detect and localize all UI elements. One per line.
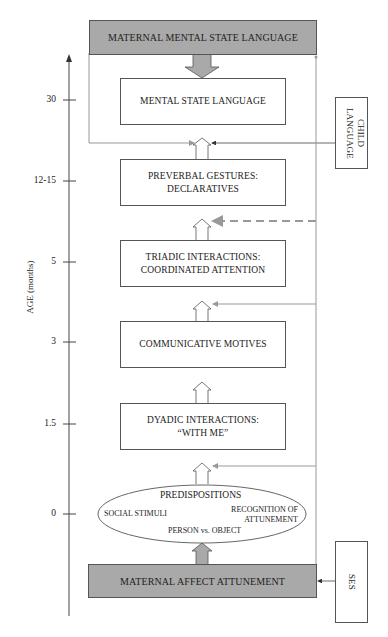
stage-triadic-interactions: TRIADIC INTERACTIONS: COORDINATED ATTENT… [120, 240, 286, 287]
age-axis-label: AGE (months) [25, 249, 35, 325]
stage-label-line2: COORDINATED ATTENTION [141, 264, 265, 277]
stage-label-line2: DECLARATIVES [167, 183, 239, 196]
maternal-affect-attunement-label: MATERNAL AFFECT ATTUNEMENT [120, 575, 285, 588]
stage-label-line1: PREVERBAL GESTURES: [148, 170, 258, 183]
stage-communicative-motives: COMMUNICATIVE MOTIVES [120, 321, 286, 368]
recognition-line2: ATTUNEMENT [222, 515, 298, 525]
age-axis-arrowhead-icon [66, 54, 72, 62]
up-arrow-icon [192, 543, 212, 565]
ses-label: SES [346, 574, 357, 590]
tick-label-0: 0 [22, 508, 56, 518]
maternal-mental-state-language-label: MATERNAL MENTAL STATE LANGUAGE [108, 31, 298, 44]
predispositions-social-stimuli: SOCIAL STIMULI [104, 509, 167, 519]
stage-preverbal-gestures: PREVERBAL GESTURES: DECLARATIVES [120, 159, 286, 206]
maternal-affect-attunement-box: MATERNAL AFFECT ATTUNEMENT [88, 564, 317, 598]
ses-box: SES [335, 541, 368, 623]
stage-dyadic-interactions: DYADIC INTERACTIONS: “WITH ME” [120, 403, 286, 450]
predispositions-title: PREDISPOSITIONS [160, 490, 241, 500]
predispositions-person-vs-object: PERSON vs. OBJECT [168, 526, 241, 536]
tick-label-1-5: 1.5 [22, 418, 56, 428]
stage-label-line1: DYADIC INTERACTIONS: [147, 414, 259, 427]
tick-label-3: 3 [22, 336, 56, 346]
down-arrow-icon [185, 53, 219, 78]
stage-label-line2: “WITH ME” [178, 427, 229, 440]
maternal-mental-state-language-box: MATERNAL MENTAL STATE LANGUAGE [89, 20, 317, 55]
child-language-label: CHILD LANGUAGE [338, 98, 366, 168]
child-language-box: CHILD LANGUAGE [335, 97, 368, 169]
tick-label-30: 30 [22, 94, 56, 104]
stage-label: COMMUNICATIVE MOTIVES [139, 338, 266, 351]
recognition-line1: RECOGNITION OF [222, 505, 298, 515]
stage-mental-state-language: MENTAL STATE LANGUAGE [120, 78, 286, 125]
stage-label: MENTAL STATE LANGUAGE [140, 95, 266, 108]
tick-label-12-15: 12-15 [22, 175, 56, 185]
stage-label-line1: TRIADIC INTERACTIONS: [146, 251, 261, 264]
predispositions-recognition: RECOGNITION OF ATTUNEMENT [222, 505, 298, 525]
